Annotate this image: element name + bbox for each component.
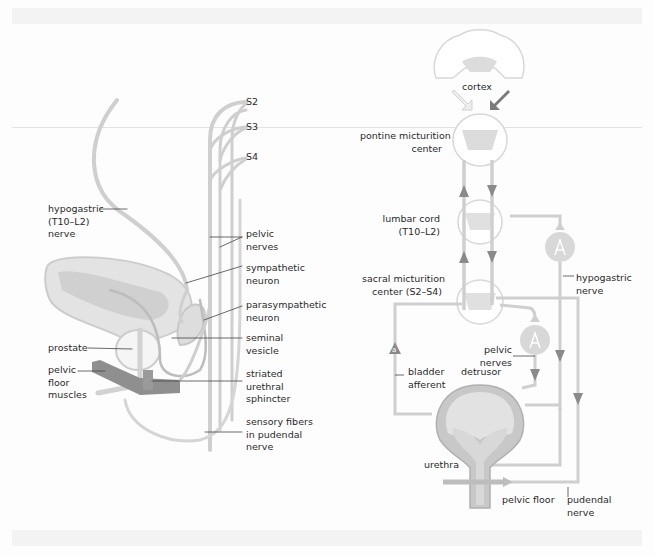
label-prostate: prostate	[48, 342, 88, 355]
label-line: nerve	[567, 507, 611, 520]
hypogastric-ganglion	[545, 232, 575, 262]
pelvic-triangle-icon	[530, 314, 540, 322]
up-arrow-2-icon	[459, 251, 469, 263]
label-line: afferent	[408, 379, 446, 392]
label-line: sympathetic	[246, 262, 305, 275]
label-bladder-afferent: bladder afferent	[408, 366, 446, 391]
label-line: sacral micturition	[362, 273, 442, 286]
label-line: seminal	[246, 332, 283, 345]
label-line: striated	[246, 368, 290, 381]
label-line: pelvic	[246, 228, 278, 241]
label-line: neuron	[246, 312, 326, 325]
label-line: hypogastric	[576, 272, 632, 285]
label-line: urethral	[246, 381, 290, 394]
urethral-sphincter	[143, 370, 153, 390]
right-schematic	[389, 30, 583, 508]
pelvic-down-arrow-icon	[530, 369, 540, 381]
label-line: pelvic	[478, 344, 512, 357]
diagram-canvas	[0, 0, 654, 555]
label-line: sensory fibers	[246, 416, 313, 429]
label-urethra: urethra	[424, 459, 459, 472]
label-line: nerves	[246, 241, 278, 254]
down-arrow-1-icon	[487, 185, 497, 197]
label-line: lumbar cord	[378, 213, 440, 226]
pelvic-ganglion	[520, 325, 550, 355]
label-line: hypogastric	[48, 203, 104, 216]
label-line: nerve	[48, 228, 104, 241]
label-line: prostate	[48, 342, 88, 355]
hypogastric-triangle-icon	[555, 222, 565, 230]
label-line: center (S2–S4)	[362, 286, 442, 299]
hypogastric-down-arrow-icon	[555, 350, 565, 362]
label-parasympathetic-neuron: parasympathetic neuron	[246, 299, 326, 324]
label-line: center	[360, 143, 442, 156]
label-line: neuron	[246, 275, 305, 288]
pudendal-down-arrow-icon	[573, 393, 583, 405]
afferent-marker: a	[392, 344, 396, 357]
label-s4: S4	[246, 151, 258, 164]
label-line: in pudendal	[246, 429, 313, 442]
label-pelvic-floor-right: pelvic floor	[502, 494, 555, 507]
label-cortex: cortex	[462, 81, 492, 94]
label-sensory-fibers: sensory fibers in pudendal nerve	[246, 416, 313, 454]
up-arrow-1-icon	[459, 185, 469, 197]
label-line: pelvic	[48, 364, 87, 377]
figure-frame: S2 S3 S4 hypogastric (T10–L2) nerve pelv…	[0, 0, 654, 555]
label-sacral-micturition-center: sacral micturition center (S2–S4)	[362, 273, 442, 298]
down-arrow-2-icon	[487, 251, 497, 263]
label-seminal-vesicle: seminal vesicle	[246, 332, 283, 357]
label-line: sphincter	[246, 393, 290, 406]
label-lumbar-cord: lumbar cord (T10–L2)	[378, 213, 440, 238]
label-line: (T10–L2)	[48, 216, 104, 229]
label-s3: S3	[246, 121, 258, 134]
label-striated-urethral-sphincter: striated urethral sphincter	[246, 368, 290, 406]
hypogastric-path	[510, 216, 560, 225]
label-pontine-micturition-center: pontine micturition center	[360, 130, 442, 155]
label-sympathetic-neuron: sympathetic neuron	[246, 262, 305, 287]
label-line: muscles	[48, 389, 87, 402]
label-s2: S2	[246, 96, 258, 109]
label-line: (T10–L2)	[378, 226, 440, 239]
pelvic-path	[500, 305, 535, 318]
label-line: pudendal	[567, 494, 611, 507]
label-pelvic-floor-muscles: pelvic floor muscles	[48, 364, 87, 402]
label-line: pontine micturition	[360, 130, 442, 143]
label-line: bladder	[408, 366, 446, 379]
label-hypogastric-nerve-right: hypogastric nerve	[576, 272, 632, 297]
label-pelvic-nerves: pelvic nerves	[246, 228, 278, 253]
pelvic-floor-arrow-icon	[503, 477, 513, 487]
cortex-ventricle	[462, 57, 497, 72]
label-pudendal-nerve: pudendal nerve	[567, 494, 611, 519]
label-line: nerve	[576, 285, 632, 298]
label-line: vesicle	[246, 345, 283, 358]
label-detrusor: detrusor	[461, 366, 501, 379]
label-hypogastric-nerve: hypogastric (T10–L2) nerve	[48, 203, 104, 241]
cortex-arrow-dark-icon	[490, 90, 510, 110]
label-line: nerve	[246, 441, 313, 454]
label-line: floor	[48, 377, 87, 390]
label-line: parasympathetic	[246, 299, 326, 312]
pons-section	[453, 114, 507, 166]
